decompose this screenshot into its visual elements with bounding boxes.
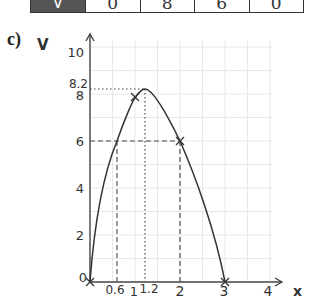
axes	[86, 34, 282, 286]
y-axis-label: V	[37, 36, 49, 54]
x-tick-label: 1	[130, 284, 138, 298]
y-tick-label: 0	[79, 270, 87, 285]
x-tick-label: 2	[176, 283, 185, 298]
x-tick-label: 0.6	[105, 283, 124, 297]
y-tick-label: 4	[76, 181, 84, 196]
x-tick-label: 3	[220, 283, 229, 298]
chart: V x 10 8.2 8 6 4 2 0 0.6 1 1.2 2 3 4	[0, 0, 309, 298]
y-tick-label: 2	[76, 228, 84, 243]
x-axis-label: x	[293, 283, 302, 298]
x-tick-label: 1.2	[139, 282, 158, 296]
y-tick-label: 10	[67, 45, 84, 60]
y-tick-label: 8	[76, 88, 84, 103]
y-tick-label: 6	[76, 134, 84, 149]
x-tick-label: 4	[264, 283, 273, 298]
